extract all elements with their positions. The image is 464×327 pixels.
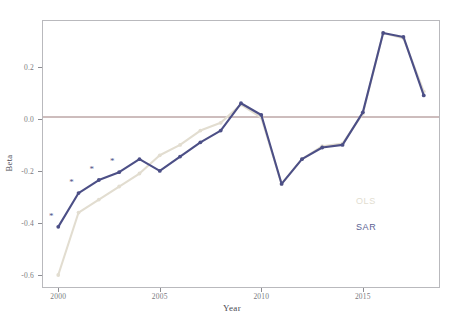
data-point — [117, 185, 121, 189]
ols-series-line — [58, 33, 424, 275]
data-point — [158, 153, 162, 157]
ols-series-points — [56, 31, 425, 277]
significance-asterisk: * — [49, 211, 54, 220]
data-point — [198, 140, 202, 144]
data-point — [117, 170, 121, 174]
data-point — [56, 225, 60, 229]
data-point — [158, 169, 162, 173]
legend-entry-sar: SAR — [356, 222, 376, 232]
data-point — [178, 143, 182, 147]
data-point — [422, 94, 426, 98]
data-point — [300, 157, 304, 161]
data-point — [97, 198, 101, 202]
data-point — [381, 31, 385, 35]
data-point — [320, 146, 324, 150]
significance-asterisk: * — [90, 165, 95, 174]
data-point — [341, 143, 345, 147]
data-point — [77, 211, 81, 215]
data-point — [219, 121, 223, 125]
chart-plot-svg — [0, 0, 464, 327]
data-point — [97, 178, 101, 182]
significance-asterisk: * — [69, 178, 74, 187]
data-point — [280, 182, 284, 186]
chart-container: Beta Year 0.20.0-0.2-0.4-0.6 20002005201… — [0, 0, 464, 327]
data-point — [77, 191, 81, 195]
data-point — [219, 129, 223, 133]
data-point — [138, 172, 142, 176]
data-point — [56, 273, 60, 277]
data-point — [178, 155, 182, 159]
data-point — [239, 101, 243, 105]
data-point — [138, 157, 142, 161]
data-point — [361, 110, 365, 114]
significance-asterisk: * — [110, 157, 115, 166]
data-point — [402, 35, 406, 39]
legend-entry-ols: OLS — [356, 196, 376, 206]
data-point — [198, 129, 202, 133]
data-point — [259, 113, 263, 117]
